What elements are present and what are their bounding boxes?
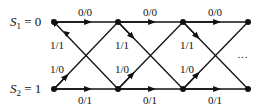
node bbox=[245, 86, 251, 92]
state-label-s2: S2 = 1 bbox=[10, 81, 41, 98]
node bbox=[115, 86, 121, 92]
edge-label-bottom-3: 0/1 bbox=[208, 94, 222, 106]
edge-label-cross-up-1: 1/0 bbox=[50, 63, 65, 75]
node bbox=[245, 19, 251, 25]
node bbox=[180, 19, 186, 25]
edge-label-cross-down-3: 1/1 bbox=[180, 39, 194, 51]
edge-label-top-2: 0/0 bbox=[143, 6, 158, 18]
edge-label-cross-down-2: 1/1 bbox=[115, 39, 129, 51]
node bbox=[51, 86, 57, 92]
edge-label-bottom-1: 0/1 bbox=[78, 94, 92, 106]
edge-label-top-3: 0/0 bbox=[208, 6, 223, 18]
continuation-ellipsis: … bbox=[237, 48, 248, 60]
node bbox=[51, 19, 57, 25]
edge-label-cross-up-2: 1/0 bbox=[115, 63, 130, 75]
trellis-diagram: S1 = 0 S2 = 1 bbox=[0, 0, 263, 110]
edge-label-cross-down-1: 1/1 bbox=[50, 39, 64, 51]
trellis-edges bbox=[54, 22, 248, 89]
edge-label-bottom-2: 0/1 bbox=[143, 94, 157, 106]
node bbox=[180, 86, 186, 92]
node bbox=[115, 19, 121, 25]
state-label-s1: S1 = 0 bbox=[10, 14, 41, 31]
edge-label-cross-up-3: 1/0 bbox=[180, 63, 195, 75]
edge-label-top-1: 0/0 bbox=[78, 6, 93, 18]
